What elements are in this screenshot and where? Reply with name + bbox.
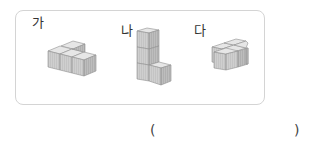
cube-figure-na (135, 27, 180, 95)
cube-figure-ga (46, 38, 106, 83)
answer-close-paren: ) (294, 122, 299, 138)
figure-label-da: 다 (194, 24, 206, 37)
figure-label-ga: 가 (32, 16, 44, 29)
answer-blank[interactable] (158, 122, 293, 138)
figure-label-na: 나 (121, 24, 133, 37)
cube-figure-da (210, 38, 255, 83)
answer-open-paren: ( (150, 122, 155, 138)
